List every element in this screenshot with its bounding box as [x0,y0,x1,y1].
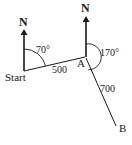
north-label-start: N [19,16,28,28]
angle-arc-170 [86,44,101,70]
point-a-label: A [77,58,85,69]
point-b-label: B [119,123,126,134]
north-label-a: N [81,2,90,14]
length-500-label: 500 [52,65,67,75]
angle-70-label: 70° [36,45,50,55]
angle-170-label: 170° [100,48,119,58]
length-700-label: 700 [100,84,115,94]
bearing-diagram: N N Start A B 70° 170° 500 700 [0,0,132,145]
start-label: Start [5,72,26,83]
